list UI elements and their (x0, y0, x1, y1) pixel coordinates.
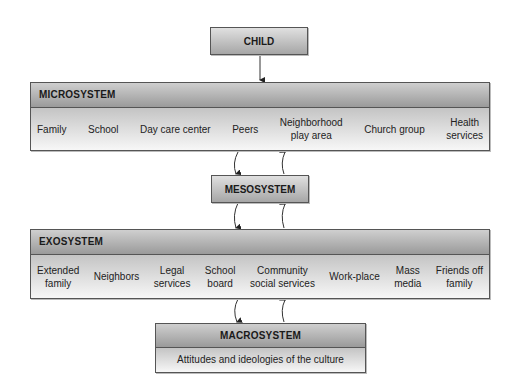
macrosystem-header: MACROSYSTEM (156, 324, 365, 348)
microsystem-header: MICROSYSTEM (31, 83, 489, 108)
microsystem-items: Family School Day care center Peers Neig… (31, 108, 489, 150)
macrosystem-description: Attitudes and ideologies of the culture (177, 354, 344, 365)
exosystem-header: EXOSYSTEM (31, 230, 489, 255)
micro-item-family: Family (37, 123, 66, 136)
macrosystem-title: MACROSYSTEM (220, 330, 301, 341)
exo-item-school-board: School board (205, 264, 236, 290)
exo-item-neighbors: Neighbors (94, 270, 140, 283)
exo-item-mass-media: Mass media (394, 264, 421, 290)
mesosystem-label: MESOSYSTEM (225, 184, 296, 195)
child-box: CHILD (210, 27, 308, 55)
exosystem-box: EXOSYSTEM Extended family Neighbors Lega… (30, 229, 490, 299)
exo-item-workplace: Work-place (329, 270, 379, 283)
micro-item-school: School (88, 123, 119, 136)
exo-item-community: Community social services (250, 264, 315, 290)
exo-item-extended-family: Extended family (37, 264, 79, 290)
mesosystem-box: MESOSYSTEM (211, 175, 309, 203)
exosystem-items: Extended family Neighbors Legal services… (31, 255, 489, 298)
micro-item-health: Health services (446, 116, 483, 142)
micro-item-day-care: Day care center (140, 123, 211, 136)
macrosystem-box: MACROSYSTEM Attitudes and ideologies of … (155, 323, 366, 373)
microsystem-title: MICROSYSTEM (39, 89, 116, 100)
micro-item-church: Church group (364, 123, 425, 136)
microsystem-box: MICROSYSTEM Family School Day care cente… (30, 82, 490, 151)
exo-item-friends: Friends off family (436, 264, 483, 290)
exo-item-legal: Legal services (154, 264, 191, 290)
micro-item-peers: Peers (232, 123, 258, 136)
child-label: CHILD (244, 36, 275, 47)
micro-item-neighborhood: Neighborhood play area (280, 116, 343, 142)
exosystem-title: EXOSYSTEM (39, 236, 103, 247)
